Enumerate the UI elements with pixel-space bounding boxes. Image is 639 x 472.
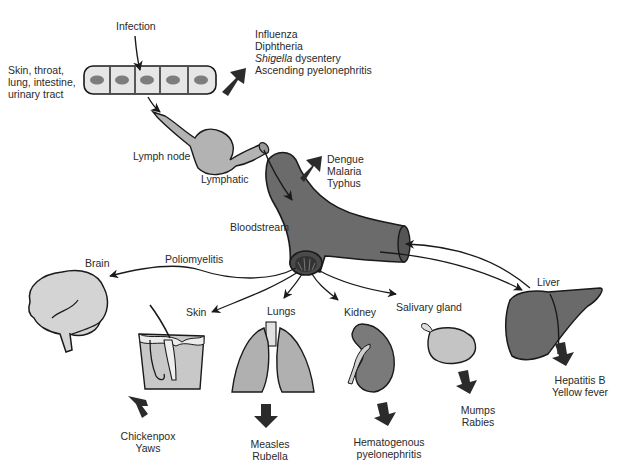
skin-diseases-list: Chickenpox Yaws <box>116 430 180 454</box>
to-brain-arrow <box>110 266 296 278</box>
brain-label: Brain <box>85 257 110 269</box>
salivary-gland-shape <box>421 323 475 363</box>
skin-label: Skin <box>186 306 206 318</box>
lymphatic-label: Lymphatic <box>201 173 248 185</box>
salivary-diseases-list: Mumps Rabies <box>458 404 498 428</box>
to-lymph-arrow <box>148 97 160 112</box>
kidney-shape <box>348 324 394 392</box>
to-salivary-arrow <box>318 270 396 294</box>
infection-arrow <box>135 36 140 70</box>
local-diseases-list: Influenza Diphtheria Shigella dysentery … <box>255 28 372 76</box>
kidney-diseases-list: Hematogenous pyelonephritis <box>352 436 426 460</box>
entry-sites-label: Skin, throat, lung, intestine, urinary t… <box>8 64 76 100</box>
bloodstream-diseases-list: Dengue Malaria Typhus <box>327 153 364 189</box>
lungs-label: Lungs <box>267 305 296 317</box>
lungs-shape <box>232 322 314 392</box>
bloodstream-label: Bloodstream <box>230 221 289 233</box>
to-lungs-arrow <box>284 274 302 298</box>
infection-label: Infection <box>116 20 156 32</box>
lymph-node-label: Lymph node <box>133 150 190 162</box>
liver-shape <box>506 288 602 360</box>
epithelial-cell-layer <box>84 66 216 94</box>
lymph-node-shape <box>153 112 271 175</box>
liver-return-arrow <box>406 244 530 288</box>
liver-label: Liver <box>537 276 560 288</box>
liver-diseases-list: Hepatitis B Yellow fever <box>548 374 612 398</box>
lungs-diseases-list: Measles Rubella <box>244 438 296 462</box>
salivary-gland-label: Salivary gland <box>396 301 462 313</box>
brain-shape <box>29 271 108 352</box>
poliomyelitis-label: Poliomyelitis <box>165 253 223 265</box>
shigella-dysentery: Shigella dysentery <box>255 52 372 64</box>
kidney-label: Kidney <box>344 306 376 318</box>
